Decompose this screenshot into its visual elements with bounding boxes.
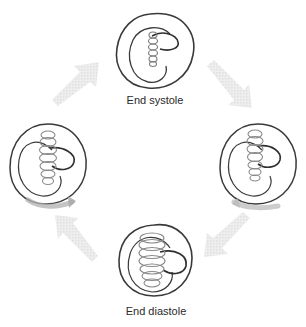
heart-loop-end-systole [116,14,193,89]
diagram-canvas [0,0,306,327]
label-end-systole: End systole [105,94,205,106]
arrow-top-to-right-icon [207,60,252,108]
arrow-left-to-top-icon [52,62,99,106]
arrow-right-to-bottom-icon [204,212,250,257]
arrow-bottom-to-left-icon [55,215,98,262]
heart-loop-right-stage [220,124,296,208]
heart-loop-left-stage [10,124,86,208]
label-end-diastole: End diastole [106,305,206,317]
heart-loop-end-diastole [119,225,192,296]
cardiac-cycle-diagram: End systole End diastole [0,0,306,327]
